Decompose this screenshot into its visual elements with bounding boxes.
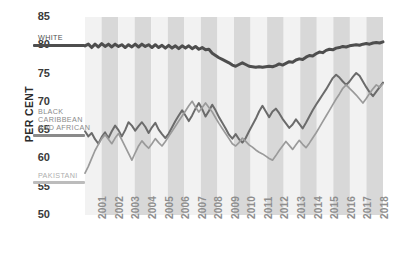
year-band-2009 xyxy=(217,17,234,215)
x-tick-2013: 2013 xyxy=(296,196,307,219)
year-band-2013 xyxy=(284,17,301,215)
x-tick-2018: 2018 xyxy=(379,196,390,219)
x-tick-2012: 2012 xyxy=(279,196,290,219)
x-tick-2010: 2010 xyxy=(246,196,257,219)
legend-rule-black-caribbean-african xyxy=(33,134,85,137)
y-tick-75: 75 xyxy=(24,67,50,79)
x-tick-2011: 2011 xyxy=(263,197,274,220)
legend-rule-pakistani xyxy=(33,181,85,184)
legend-label-white: WHITE xyxy=(38,34,63,42)
line-chart: PER CENT 8580757065605550 20012002200320… xyxy=(0,0,398,267)
year-band-2011 xyxy=(251,17,268,215)
x-tick-2003: 2003 xyxy=(130,196,141,219)
x-tick-2001: 2001 xyxy=(97,196,108,219)
legend-black-line3: AND AFRICAN xyxy=(38,123,90,132)
x-tick-2004: 2004 xyxy=(147,196,158,219)
x-tick-2017: 2017 xyxy=(362,196,373,219)
x-tick-2016: 2016 xyxy=(346,196,357,219)
x-tick-2014: 2014 xyxy=(313,196,324,219)
y-tick-70: 70 xyxy=(24,95,50,107)
y-axis-title: PER CENT xyxy=(23,69,35,159)
x-tick-2015: 2015 xyxy=(329,196,340,219)
x-tick-2009: 2009 xyxy=(230,196,241,219)
y-tick-50: 50 xyxy=(24,208,50,220)
legend-rule-white xyxy=(33,44,85,47)
legend-label-black-caribbean-african: BLACK CARIBBEAN AND AFRICAN xyxy=(38,108,90,133)
x-tick-2008: 2008 xyxy=(213,196,224,219)
x-tick-2005: 2005 xyxy=(164,196,175,219)
year-band-2018 xyxy=(366,17,383,215)
year-band-2014 xyxy=(300,17,317,215)
x-tick-2002: 2002 xyxy=(114,196,125,219)
year-band-2015 xyxy=(317,17,334,215)
x-tick-2007: 2007 xyxy=(197,196,208,219)
y-tick-60: 60 xyxy=(24,151,50,163)
x-tick-2006: 2006 xyxy=(180,196,191,219)
legend-label-pakistani: PAKISTANI xyxy=(38,172,78,180)
year-band-2010 xyxy=(234,17,251,215)
y-tick-85: 85 xyxy=(24,10,50,22)
